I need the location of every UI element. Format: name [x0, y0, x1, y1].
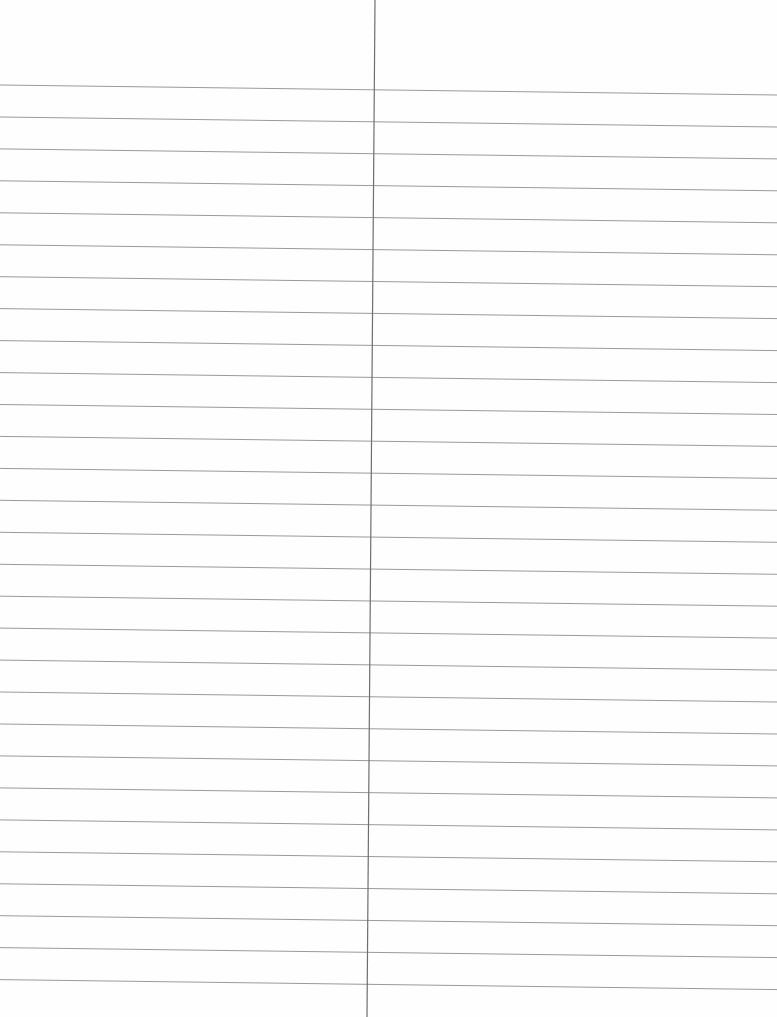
- horizontal-rule: [0, 117, 777, 127]
- vertical-center-divider: [367, 0, 375, 1017]
- horizontal-rule: [0, 820, 777, 830]
- horizontal-rule: [0, 245, 777, 255]
- horizontal-rule: [0, 724, 777, 734]
- horizontal-rule: [0, 341, 777, 351]
- horizontal-rule: [0, 405, 777, 415]
- horizontal-rule: [0, 309, 777, 319]
- horizontal-rule: [0, 692, 777, 702]
- horizontal-rule: [0, 85, 777, 95]
- horizontal-rule: [0, 980, 777, 990]
- horizontal-rule: [0, 884, 777, 894]
- horizontal-rule: [0, 149, 777, 159]
- horizontal-rule: [0, 532, 777, 542]
- horizontal-rule: [0, 468, 777, 478]
- horizontal-rule: [0, 181, 777, 191]
- horizontal-rule: [0, 277, 777, 287]
- horizontal-rule: [0, 852, 777, 862]
- horizontal-rule: [0, 948, 777, 958]
- horizontal-rule: [0, 596, 777, 606]
- horizontal-rules: [0, 85, 777, 990]
- horizontal-rule: [0, 373, 777, 383]
- horizontal-rule: [0, 500, 777, 510]
- horizontal-rule: [0, 436, 777, 446]
- horizontal-rule: [0, 628, 777, 638]
- horizontal-rule: [0, 756, 777, 766]
- horizontal-rule: [0, 916, 777, 926]
- horizontal-rule: [0, 213, 777, 223]
- notebook-page: [0, 0, 777, 1017]
- horizontal-rule: [0, 564, 777, 574]
- horizontal-rule: [0, 660, 777, 670]
- horizontal-rule: [0, 788, 777, 798]
- page-ruling: [0, 0, 777, 1017]
